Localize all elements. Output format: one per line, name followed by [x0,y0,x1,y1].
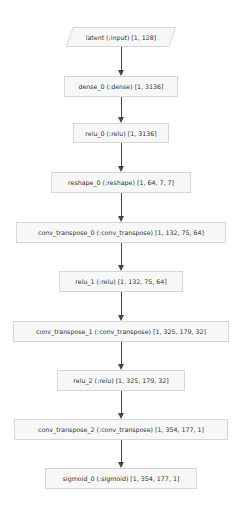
edge-dense_0-relu_0 [121,97,122,117]
node-label: relu_0 (:relu) [1, 3136] [85,130,156,137]
node-relu_2: relu_2 (:relu) [1, 325, 179, 32] [57,370,185,391]
node-label: dense_0 (:dense) [1, 3136] [78,83,163,90]
node-label: conv_transpose_2 (:conv_transpose) [1, 3… [38,426,204,433]
node-label: latent (:input) [1, 128] [86,34,157,41]
node-sigmoid_0: sigmoid_0 (:sigmoid) [1, 354, 177, 1] [45,468,197,489]
node-label: reshape_0 (:reshape) [1, 64, 7, 7] [68,179,174,186]
edge-relu_1-conv_transpose_1 [121,292,122,315]
node-relu_0: relu_0 (:relu) [1, 3136] [73,123,169,143]
edge-relu_0-reshape_0 [121,143,122,166]
node-latent-input: latent (:input) [1, 128] [66,27,176,47]
node-relu_1: relu_1 (:relu) [1, 132, 75, 64] [59,271,183,292]
edge-latent-dense_0 [121,47,122,70]
edge-conv_transpose_2-sigmoid_0 [121,440,122,462]
node-label: sigmoid_0 (:sigmoid) [1, 354, 177, 1] [63,475,180,482]
edge-conv_transpose_0-relu_1 [121,243,122,265]
model-graph-diagram: latent (:input) [1, 128] dense_0 (:dense… [0,0,242,514]
node-conv_transpose_1: conv_transpose_1 (:conv_transpose) [1, 3… [13,321,229,342]
edge-conv_transpose_1-relu_2 [121,342,122,364]
node-label: conv_transpose_0 (:conv_transpose) [1, 1… [38,229,204,236]
edge-relu_2-conv_transpose_2 [121,391,122,413]
node-label: conv_transpose_1 (:conv_transpose) [1, 3… [36,328,206,335]
node-conv_transpose_2: conv_transpose_2 (:conv_transpose) [1, 3… [14,419,228,440]
node-label: relu_1 (:relu) [1, 132, 75, 64] [75,278,166,285]
node-dense_0: dense_0 (:dense) [1, 3136] [64,76,178,97]
node-reshape_0: reshape_0 (:reshape) [1, 64, 7, 7] [51,172,191,193]
node-conv_transpose_0: conv_transpose_0 (:conv_transpose) [1, 1… [16,222,226,243]
node-label: relu_2 (:relu) [1, 325, 179, 32] [73,377,168,384]
edge-reshape_0-conv_transpose_0 [121,193,122,216]
